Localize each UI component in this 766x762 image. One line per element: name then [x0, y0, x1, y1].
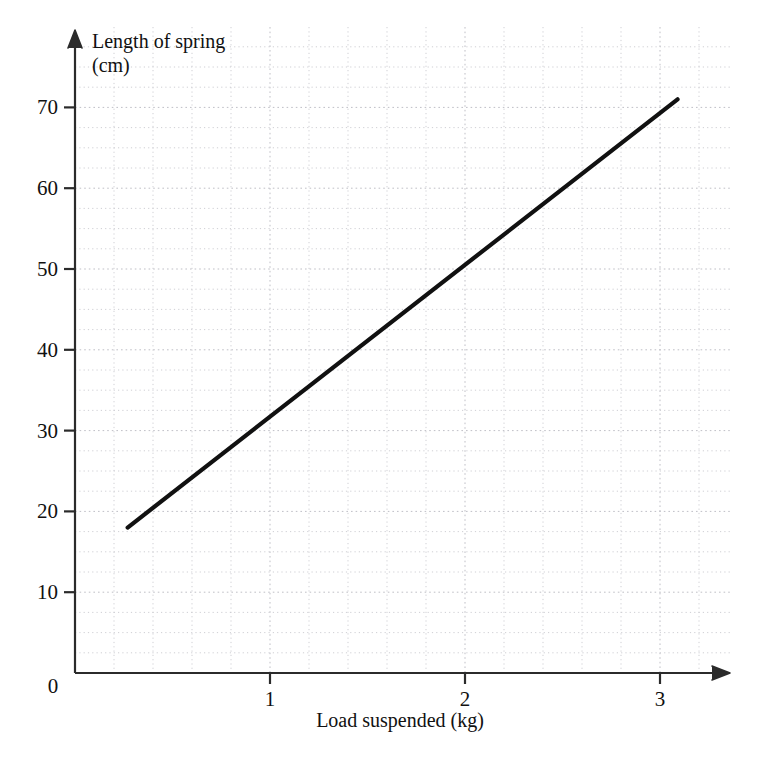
y-axis-title-line1: Length of spring — [92, 30, 225, 53]
x-tick-label: 1 — [265, 687, 276, 711]
y-tick-label: 30 — [37, 419, 58, 443]
chart-background — [0, 0, 766, 762]
x-tick-label: 2 — [460, 687, 471, 711]
x-tick-label: 0 — [48, 674, 59, 698]
y-tick-label: 60 — [37, 176, 58, 200]
y-tick-label: 70 — [37, 95, 58, 119]
x-axis-title: Load suspended (kg) — [316, 709, 484, 732]
x-tick-label: 3 — [655, 687, 666, 711]
y-tick-label: 20 — [37, 499, 58, 523]
y-tick-label: 50 — [37, 257, 58, 281]
y-axis-title-line2: (cm) — [92, 54, 130, 77]
y-tick-label: 10 — [37, 580, 58, 604]
spring-length-line-chart: 10203040506070 0123 Length of spring (cm… — [0, 0, 766, 762]
y-tick-label: 40 — [37, 338, 58, 362]
chart-container: 10203040506070 0123 Length of spring (cm… — [0, 0, 766, 762]
